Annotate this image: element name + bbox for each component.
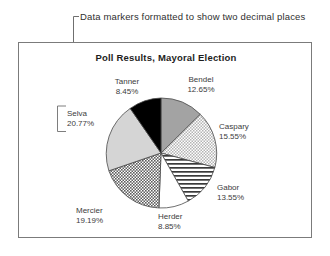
selva-leader-line (58, 106, 67, 132)
pie-label-caspary: Caspary 15.55% (219, 122, 281, 141)
pie-label-herder: Herder 8.85% (158, 212, 218, 231)
pie-label-mercier-value: 19.19% (76, 216, 138, 226)
pie-label-bendel-name: Bendel (171, 75, 231, 85)
pie-label-mercier: Mercier 19.19% (76, 206, 138, 225)
chart-container: Poll Results, Mayoral Election (18, 42, 312, 238)
pie-label-tanner-name: Tanner (97, 77, 157, 87)
pie-label-gabor-value: 13.55% (217, 193, 279, 203)
pie-label-bendel-value: 12.65% (171, 85, 231, 95)
pie-label-tanner-value: 8.45% (97, 87, 157, 97)
pie-label-caspary-name: Caspary (219, 122, 281, 132)
pie-label-herder-value: 8.85% (158, 222, 218, 232)
pie-label-mercier-name: Mercier (76, 206, 138, 216)
pie-label-selva-value: 20.77% (67, 119, 125, 129)
pie-label-tanner: Tanner 8.45% (97, 77, 157, 96)
pie-label-herder-name: Herder (158, 212, 218, 222)
pie-label-selva: Selva 20.77% (67, 109, 125, 128)
pie-label-caspary-value: 15.55% (219, 132, 281, 142)
pie-label-gabor: Gabor 13.55% (217, 183, 279, 202)
pie-label-gabor-name: Gabor (217, 183, 279, 193)
pie-label-bendel: Bendel 12.65% (171, 75, 231, 94)
pie-chart (19, 43, 313, 239)
annotation-label: Data markers formatted to show two decim… (80, 11, 305, 23)
screenshot-root: Data markers formatted to show two decim… (0, 0, 330, 256)
pie-label-selva-name: Selva (67, 109, 125, 119)
